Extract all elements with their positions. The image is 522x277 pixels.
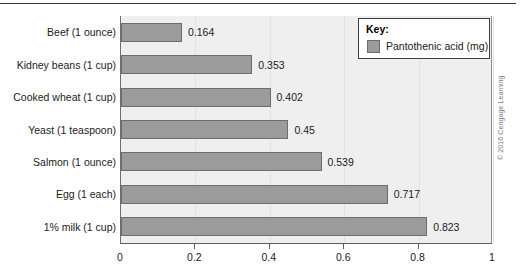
legend-title: Key:: [366, 23, 389, 35]
category-label: 1% milk (1 cup): [0, 221, 116, 233]
bar: [121, 217, 427, 236]
category-label: Cooked wheat (1 cup): [0, 91, 116, 103]
x-axis-tick-label: 0.4: [261, 251, 276, 263]
x-axis-tick: [343, 243, 344, 249]
legend-color-swatch: [367, 40, 380, 53]
gridline: [344, 16, 345, 243]
category-label: Egg (1 each): [0, 188, 116, 200]
bar: [121, 185, 388, 204]
legend-entry-label: Pantothenic acid (mg): [386, 40, 488, 53]
category-label: Beef (1 ounce): [0, 26, 116, 38]
category-label: Yeast (1 teaspoon): [0, 124, 116, 136]
x-axis-tick: [269, 243, 270, 249]
bar-chart-figure: Beef (1 ounce)Kidney beans (1 cup)Cooked…: [0, 0, 522, 277]
bar-value-label: 0.402: [277, 91, 303, 103]
x-axis-line: [120, 243, 492, 244]
bar: [121, 88, 271, 107]
bar-value-label: 0.823: [433, 221, 459, 233]
plot-right-edge: [491, 16, 492, 244]
x-axis-tick: [418, 243, 419, 249]
bar: [121, 152, 322, 171]
gridline: [493, 16, 494, 243]
x-axis-tick-label: 0.8: [410, 251, 425, 263]
bar-value-label: 0.164: [188, 26, 214, 38]
bar: [121, 55, 252, 74]
copyright-credit: © 2016 Cengage Learning: [497, 75, 504, 160]
x-axis-tick: [194, 243, 195, 249]
category-label: Kidney beans (1 cup): [0, 59, 116, 71]
x-axis-tick-label: 0.2: [187, 251, 202, 263]
x-axis-tick-label: 0: [117, 251, 123, 263]
bar: [121, 23, 182, 42]
bar-value-label: 0.717: [394, 188, 420, 200]
bar-value-label: 0.353: [258, 59, 284, 71]
category-axis-labels: Beef (1 ounce)Kidney beans (1 cup)Cooked…: [0, 16, 116, 243]
bar: [121, 120, 288, 139]
top-divider-rule: [0, 3, 516, 4]
category-label: Salmon (1 ounce): [0, 156, 116, 168]
x-axis-tick-label: 1: [489, 251, 495, 263]
chart-legend: Key: Pantothenic acid (mg): [358, 18, 490, 59]
bar-value-label: 0.45: [294, 124, 314, 136]
bar-value-label: 0.539: [328, 156, 354, 168]
x-axis-tick-label: 0.6: [336, 251, 351, 263]
